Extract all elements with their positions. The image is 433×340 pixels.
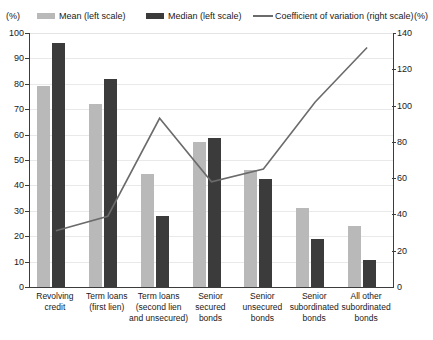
right-axis-tick-label: 120: [397, 65, 423, 74]
left-axis-tick-label: 20: [0, 232, 24, 241]
left-axis-tick-label: 90: [0, 54, 24, 63]
x-axis-label-line: subordinated: [336, 302, 396, 313]
left-axis-tick-label: 30: [0, 207, 24, 216]
left-axis-tick-label: 40: [0, 181, 24, 190]
mean-swatch-icon: [37, 13, 55, 19]
x-axis-label: Term loans(second lienand unsecured): [129, 291, 189, 324]
left-axis-unit-label: (%): [6, 9, 20, 23]
right-axis-tick-label: 40: [397, 210, 423, 219]
x-axis-label: Term loans(first lien): [77, 291, 137, 313]
legend-label-mean: Mean (left scale): [59, 9, 126, 23]
x-axis-label: Seniorsecuredbonds: [181, 291, 241, 324]
x-axis-label-line: All other: [336, 291, 396, 302]
left-axis-tick-label: 70: [0, 105, 24, 114]
x-axis-label-line: Senior: [232, 291, 292, 302]
x-axis-label-line: (second lien: [129, 302, 189, 313]
x-axis-label-line: bonds: [284, 313, 344, 324]
left-axis-tick-label: 100: [0, 29, 24, 38]
x-axis-label-line: (first lien): [77, 302, 137, 313]
x-axis-label-line: subordinated: [284, 302, 344, 313]
x-axis-label-line: unsecured: [232, 302, 292, 313]
legend-entry-mean: Mean (left scale): [37, 9, 126, 23]
x-axis-label-line: secured: [181, 302, 241, 313]
plot-area: [29, 33, 394, 288]
legend-label-median: Median (left scale): [168, 9, 242, 23]
x-axis-label-line: Term loans: [77, 291, 137, 302]
left-axis-tick-label: 50: [0, 156, 24, 165]
coefficient-line-swatch-icon: [253, 15, 273, 17]
legend-entry-coefficient-of-variation: Coefficient of variation (right scale): [253, 9, 413, 23]
x-axis-label-line: Term loans: [129, 291, 189, 302]
legend-label-coefficient-of-variation: Coefficient of variation (right scale): [275, 9, 413, 23]
x-axis-label: Seniorunsecuredbonds: [232, 291, 292, 324]
x-axis-label: All othersubordinatedbonds: [336, 291, 396, 324]
x-axis-label: Seniorsubordinatedbonds: [284, 291, 344, 324]
legend-entry-median: Median (left scale): [146, 9, 242, 23]
x-axis-label-line: bonds: [232, 313, 292, 324]
right-axis-unit-label: (%): [414, 9, 428, 23]
chart-legend: (%) Mean (left scale) Median (left scale…: [0, 9, 433, 23]
median-swatch-icon: [146, 13, 164, 19]
x-axis-label-line: Senior: [181, 291, 241, 302]
chart-container: (%) Mean (left scale) Median (left scale…: [0, 0, 433, 340]
right-axis-zero-label: 0: [397, 283, 402, 292]
x-axis-label-line: bonds: [336, 313, 396, 324]
right-axis-tick-label: 20: [397, 247, 423, 256]
coefficient-of-variation-line: [30, 33, 393, 287]
x-axis-label-line: Senior: [284, 291, 344, 302]
x-axis-label-line: bonds: [181, 313, 241, 324]
left-axis-tick-label: 0: [0, 283, 24, 292]
left-axis-tick-label: 80: [0, 80, 24, 89]
right-axis-tick-label: 60: [397, 174, 423, 183]
x-axis-label-line: and unsecured): [129, 313, 189, 324]
left-axis-tick-label: 60: [0, 131, 24, 140]
right-axis-tick-label: 140: [397, 29, 423, 38]
right-axis-tick-label: 80: [397, 138, 423, 147]
left-axis-tick-label: 10: [0, 258, 24, 267]
right-axis-tick-label: 100: [397, 102, 423, 111]
x-axis-labels: RevolvingcreditTerm loans(first lien)Ter…: [29, 291, 392, 339]
